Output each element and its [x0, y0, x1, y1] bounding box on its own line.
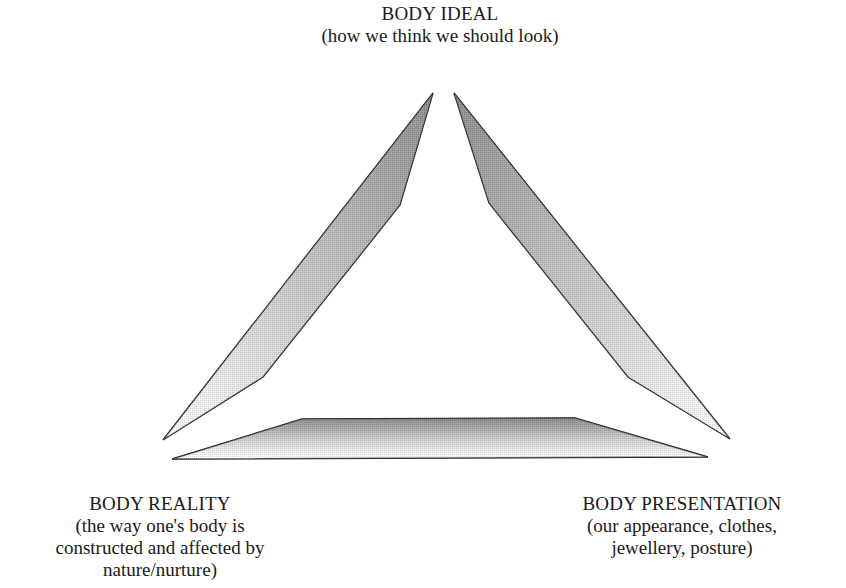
node-body-reality: BODY REALITY (the way one's body is cons… — [10, 493, 310, 581]
node-description-line: constructed and affected by — [10, 537, 310, 559]
node-title: BODY IDEAL — [280, 3, 600, 25]
node-title: BODY PRESENTATION — [532, 493, 832, 515]
edge-reality-ideal — [163, 93, 433, 440]
node-body-ideal: BODY IDEAL (how we think we should look) — [280, 3, 600, 47]
edge-ideal-presentation — [454, 93, 730, 439]
node-description-line: nature/nurture) — [10, 559, 310, 581]
node-description-line: (the way one's body is — [10, 515, 310, 537]
node-description: (how we think we should look) — [280, 25, 600, 47]
node-description-line: (our appearance, clothes, — [532, 515, 832, 537]
node-description-line: jewellery, posture) — [532, 537, 832, 559]
node-title: BODY REALITY — [10, 493, 310, 515]
node-body-presentation: BODY PRESENTATION (our appearance, cloth… — [532, 493, 832, 559]
edge-reality-presentation — [172, 418, 708, 459]
